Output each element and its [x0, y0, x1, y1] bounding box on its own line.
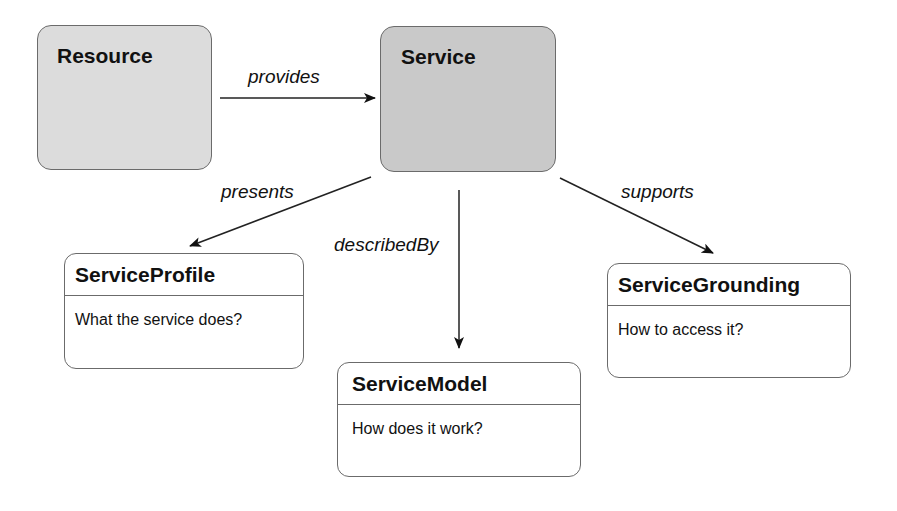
described-by-label: describedBy — [334, 234, 439, 256]
service-profile-description: What the service does? — [75, 311, 242, 329]
supports-label: supports — [621, 181, 694, 203]
service-model-description: How does it work? — [352, 420, 483, 438]
service-model-header: ServiceModel — [338, 363, 580, 405]
service-profile-title: ServiceProfile — [75, 263, 215, 287]
service-model-title: ServiceModel — [352, 372, 487, 396]
service-profile-node: ServiceProfile What the service does? — [64, 253, 304, 369]
resource-title: Resource — [57, 44, 153, 68]
service-node: Service — [380, 26, 556, 172]
service-title: Service — [401, 45, 476, 69]
provides-label: provides — [248, 66, 320, 88]
service-grounding-description: How to access it? — [618, 321, 743, 339]
service-model-node: ServiceModel How does it work? — [337, 362, 581, 477]
service-grounding-node: ServiceGrounding How to access it? — [607, 263, 851, 378]
service-grounding-title: ServiceGrounding — [618, 273, 800, 297]
service-profile-header: ServiceProfile — [65, 254, 303, 296]
resource-node: Resource — [37, 25, 212, 170]
presents-label: presents — [221, 181, 294, 203]
service-grounding-header: ServiceGrounding — [608, 264, 850, 306]
